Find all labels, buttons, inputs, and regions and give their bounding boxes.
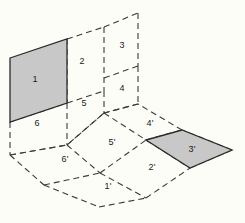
face-label-2-prime: 2' <box>148 162 155 172</box>
isometric-net-figure <box>0 0 245 223</box>
floor-grid-line-f <box>100 140 146 173</box>
floor-edge-left-down <box>10 155 44 185</box>
floor-edge-right-lower <box>146 168 190 198</box>
face-label-1: 1 <box>32 74 37 84</box>
face-label-3: 3 <box>119 40 124 50</box>
floor-edge-bottom-right <box>99 198 146 207</box>
face-label-5-prime: 5' <box>108 137 115 147</box>
face-label-5: 5 <box>81 98 86 108</box>
face-label-6-prime: 6' <box>61 154 68 164</box>
floor-edge-bottom-left <box>44 185 99 207</box>
face-label-3-prime: 3' <box>188 144 195 154</box>
face-label-2: 2 <box>79 56 84 66</box>
face-label-4: 4 <box>119 83 124 93</box>
floor-grid-line-a <box>67 145 100 173</box>
face-label-1-prime: 1' <box>104 181 111 191</box>
wall-hline-mid-right <box>104 66 138 78</box>
floor-edge-top-right <box>138 104 182 130</box>
floor-grid-line-e <box>44 173 100 185</box>
wall-hline-bot-left <box>10 145 67 155</box>
face-label-6: 6 <box>34 118 39 128</box>
face-label-4-prime: 4' <box>146 118 153 128</box>
wall-edge-top-left <box>67 27 104 39</box>
floor-edge-left-top <box>10 145 67 155</box>
shaded-face-1[interactable] <box>10 39 67 122</box>
wall-edge-top-right <box>104 13 138 27</box>
floor-grid-line-c <box>104 113 146 140</box>
diagram-canvas: 1 2 3 4 5 6 4' 5' 6' 3' 2' 1' <box>0 0 245 223</box>
